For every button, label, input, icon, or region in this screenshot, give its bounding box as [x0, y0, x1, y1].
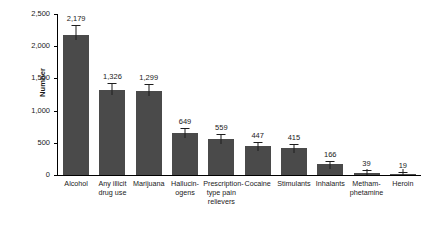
x-axis-category-label-line: Hallucin- [167, 179, 203, 188]
bar-group[interactable]: 166 [312, 14, 348, 175]
x-axis-category-label-line: ogens [167, 188, 203, 197]
x-axis-category-label-line: Heroin [385, 179, 421, 188]
x-axis-category-label-line: phetamine [348, 188, 384, 197]
bar-value-label: 415 [288, 133, 301, 142]
x-axis-category-label-line: Stimulants [276, 179, 312, 188]
bar-group[interactable]: 415 [276, 14, 312, 175]
x-axis-category-label-line: Alcohol [58, 179, 94, 188]
x-axis-category-label: Heroin [385, 179, 421, 188]
error-bar-line [112, 84, 113, 95]
error-bar-cap [253, 142, 262, 143]
x-axis-category-label: Metham-phetamine [348, 179, 384, 197]
error-bar-cap [144, 84, 153, 85]
error-bar-cap [72, 25, 81, 26]
y-axis-tick-label: 1,000 [0, 107, 54, 115]
bar-group[interactable]: 2,179 [58, 14, 94, 175]
error-bar-line [221, 135, 222, 144]
error-bar-line [330, 162, 331, 169]
x-axis-category-label: Cocaine [240, 179, 276, 188]
x-axis-category-label: Alcohol [58, 179, 94, 188]
error-bar-cap [362, 170, 371, 171]
x-axis-category-label: Any illicitdrug use [94, 179, 130, 197]
error-bar-cap [217, 134, 226, 135]
plot-area: 2,1791,3261,2996495594474151663919 [58, 14, 421, 175]
error-bar-cap [326, 161, 335, 162]
x-axis-category-label-line: relievers [203, 197, 239, 206]
bar-value-label: 1,326 [103, 72, 122, 81]
bar-group[interactable]: 1,299 [131, 14, 167, 175]
error-bar-line [257, 143, 258, 151]
bar-group[interactable]: 447 [240, 14, 276, 175]
x-axis-category-label-line: type pain [203, 188, 239, 197]
x-axis-category-label: Prescription-type painrelievers [203, 179, 239, 206]
y-axis-tick-labels: 05001,0001,5002,0002,500 [0, 0, 54, 227]
x-axis-category-label-line: drug use [94, 188, 130, 197]
error-bar-line [148, 85, 149, 96]
bar-value-label: 1,299 [139, 73, 158, 82]
x-axis-category-label-line: Inhalants [312, 179, 348, 188]
bar-value-label: 649 [179, 117, 192, 126]
error-bar-cap [398, 172, 407, 173]
y-axis-tick-label: 500 [0, 139, 54, 147]
error-bar-line [293, 145, 294, 153]
x-axis-category-label-line: Cocaine [240, 179, 276, 188]
bar-group[interactable]: 39 [348, 14, 384, 175]
x-axis-line [57, 175, 421, 176]
bar-chart: Number 05001,0001,5002,0002,500 2,1791,3… [0, 0, 432, 227]
bar[interactable] [99, 90, 125, 175]
bar-value-label: 2,179 [67, 14, 86, 23]
bar-group[interactable]: 559 [203, 14, 239, 175]
bar-group[interactable]: 1,326 [94, 14, 130, 175]
y-axis-tick-label: 0 [0, 171, 54, 179]
x-axis-category-label-line: Any illicit [94, 179, 130, 188]
bar[interactable] [172, 133, 198, 175]
error-bar-cap [181, 128, 190, 129]
bar-value-label: 19 [399, 161, 407, 170]
error-bar-line [76, 26, 77, 40]
bar-value-label: 39 [362, 159, 370, 168]
bar-value-label: 166 [324, 150, 337, 159]
x-axis-category-label: Hallucin-ogens [167, 179, 203, 197]
x-axis-category-label-line: Prescription- [203, 179, 239, 188]
x-axis-category-label-line: Metham- [348, 179, 384, 188]
x-axis-category-label: Stimulants [276, 179, 312, 188]
y-axis-tick-label: 1,500 [0, 74, 54, 82]
bar-group[interactable]: 649 [167, 14, 203, 175]
bar-group[interactable]: 19 [385, 14, 421, 175]
x-axis-category-label: Inhalants [312, 179, 348, 188]
x-axis-category-labels: AlcoholAny illicitdrug useMarijuanaHallu… [58, 179, 421, 227]
bar[interactable] [63, 35, 89, 175]
x-axis-category-label-line: Marijuana [131, 179, 167, 188]
bar[interactable] [208, 139, 234, 175]
error-bar-cap [108, 83, 117, 84]
bar-value-label: 447 [251, 131, 264, 140]
error-bar-line [185, 129, 186, 138]
error-bar-cap [289, 144, 298, 145]
bar-value-label: 559 [215, 123, 228, 132]
x-axis-category-label: Marijuana [131, 179, 167, 188]
y-axis-tick-label: 2,000 [0, 42, 54, 50]
y-axis-tick-label: 2,500 [0, 10, 54, 18]
bar[interactable] [136, 91, 162, 175]
